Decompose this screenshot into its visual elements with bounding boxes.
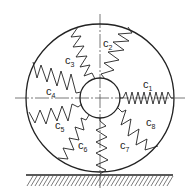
label-c3: c3 [65, 54, 75, 68]
spring-c3 [71, 27, 95, 79]
label-c6: c6 [78, 139, 88, 153]
spring-c2 [101, 27, 132, 79]
wheel-spring-diagram: c1 c2 c3 c4 c5 c6 c7 c8 [0, 0, 195, 196]
label-c4: c4 [46, 85, 56, 99]
label-c7: c7 [120, 139, 130, 153]
label-c1: c1 [143, 78, 153, 92]
spring-c7 [96, 118, 108, 174]
label-c8: c8 [146, 116, 156, 130]
label-c5: c5 [55, 119, 65, 133]
label-c2: c2 [103, 37, 113, 51]
